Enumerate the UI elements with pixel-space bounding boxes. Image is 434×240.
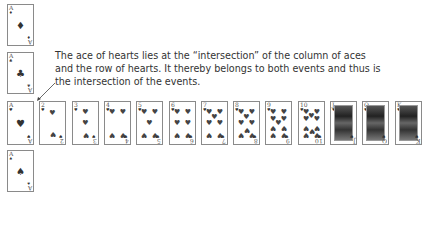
- card-8-of-hearts: 8♥♥♥♥♥♥♥♥♥♥8: [233, 101, 260, 145]
- card-rank: 7: [222, 138, 226, 144]
- card-7-of-hearts: 7♥♥♥♥♥♥♥♥♥7: [201, 101, 228, 145]
- heart-icon: ♥: [174, 108, 180, 115]
- card-9-of-hearts: 9♥♥♥♥♥♥♥♥♥♥♥9: [265, 101, 292, 145]
- heart-icon: ♥: [49, 110, 55, 117]
- heart-icon: ♥: [206, 131, 212, 138]
- card-rank: K: [416, 138, 420, 144]
- card-q-of-hearts: Q♥♥Q: [362, 101, 389, 145]
- card-10-of-hearts: 10♥♥♥♥♥♥♥♥♥♥♥♥10: [298, 101, 325, 145]
- heart-icon: ♥: [109, 131, 115, 138]
- card-3-of-hearts: 3♥♥♥♥♥3: [72, 101, 99, 145]
- heart-icon: ♥: [120, 108, 126, 115]
- heart-icon: ♥: [49, 129, 55, 136]
- heart-icon: ♥: [146, 120, 152, 127]
- heart-icon: ♥: [141, 108, 147, 115]
- heart-icon: ♥: [238, 131, 244, 138]
- card-rank: 3: [93, 138, 97, 144]
- card-rank: 4: [125, 138, 129, 144]
- heart-icon: ♥: [314, 116, 320, 123]
- heart-icon: ♥: [281, 123, 287, 130]
- card-rank: 5: [157, 138, 161, 144]
- heart-icon: ♥: [303, 131, 309, 138]
- heart-icon: ♥: [141, 131, 147, 138]
- heart-icon: ♥: [82, 108, 88, 115]
- card-rank: Q: [382, 138, 387, 144]
- heart-icon: ♥: [82, 120, 88, 127]
- card-5-of-hearts: 5♥♥♥♥♥♥♥5: [136, 101, 163, 145]
- card-j-of-hearts: J♥♥J: [330, 101, 357, 145]
- heart-icon: ♥: [270, 131, 276, 138]
- heart-icon: ♥: [270, 123, 276, 130]
- card-4-of-hearts: 4♥♥♥♥♥♥4: [104, 101, 131, 145]
- heart-icon: ♥: [174, 131, 180, 138]
- card-2-of-hearts: 2♥♥♥♥2: [39, 101, 66, 145]
- card-rank: 10: [315, 138, 323, 144]
- heart-icon: ♥: [185, 120, 191, 127]
- heart-icon: ♥: [303, 116, 309, 123]
- card-rank: 9: [286, 138, 290, 144]
- heart-icon: ♥: [217, 120, 223, 127]
- card-rank: 6: [190, 138, 194, 144]
- heart-icon: ♥: [152, 108, 158, 115]
- heart-icon: ♥: [16, 118, 25, 129]
- card-rank: 2: [60, 138, 64, 144]
- card-a-of-hearts: A♥♥♥A: [7, 101, 34, 145]
- heart-icon: ♥: [185, 108, 191, 115]
- heart-icon: ♥: [109, 108, 115, 115]
- card-6-of-hearts: 6♥♥♥♥♥♥♥♥6: [169, 101, 196, 145]
- heart-icon: ♥: [174, 120, 180, 127]
- card-rank: A: [28, 138, 32, 144]
- card-rank: J: [353, 138, 355, 144]
- card-k-of-hearts: K♥♥K: [395, 101, 422, 145]
- heart-icon: ♥: [82, 131, 88, 138]
- heart-icon: ♥: [9, 108, 13, 112]
- card-rank: 8: [254, 138, 258, 144]
- heart-icon: ♥: [206, 120, 212, 127]
